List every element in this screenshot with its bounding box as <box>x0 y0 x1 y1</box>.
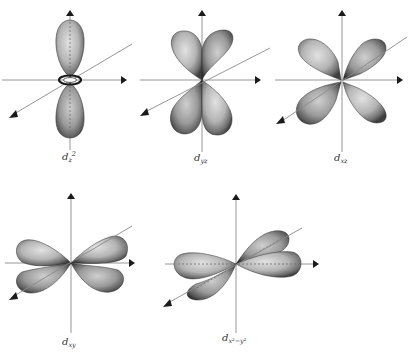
x-axis-arrow-icon <box>397 76 403 84</box>
lobe-lower-right <box>343 82 386 123</box>
y-axis-arrow-icon <box>163 299 172 307</box>
lobe-upper-right <box>202 30 233 80</box>
z-axis-arrow-icon <box>338 10 346 16</box>
d-orbitals-diagram <box>0 0 414 355</box>
label-dx2y2: dx²−y² <box>222 332 246 345</box>
lobe-lower-left <box>296 82 341 124</box>
label-dyz: dyz <box>194 152 208 165</box>
label-subscript: x²−y² <box>228 337 246 345</box>
z-axis-arrow-icon <box>198 10 206 16</box>
z-axis-arrow-icon <box>232 194 240 200</box>
orbital-dxz <box>275 10 407 152</box>
x-axis-arrow-icon <box>313 260 319 268</box>
lobe-lower-right <box>202 80 232 135</box>
z-axis-arrow-icon <box>66 10 74 16</box>
lobe-front-right <box>71 263 124 292</box>
lobe-lower-left <box>170 80 202 134</box>
label-subscript: yz <box>200 157 207 165</box>
label-dxz: dxz <box>334 152 348 165</box>
lobe-back-right <box>71 236 128 263</box>
y-axis-arrow-icon <box>9 110 18 118</box>
orbital-dyz <box>140 10 270 152</box>
label-dz2: dz2 <box>62 150 76 164</box>
z-axis-arrow-icon <box>67 193 75 199</box>
lobe-upper <box>56 20 84 77</box>
x-axis-arrow-icon <box>121 76 127 84</box>
label-subscript: xz <box>340 157 347 165</box>
orbital-dx2y2 <box>163 194 319 333</box>
lobe-upper-right <box>343 39 386 80</box>
x-axis-arrow-icon <box>129 259 135 267</box>
label-superscript: 2 <box>72 150 76 158</box>
x-axis-arrow-icon <box>255 76 261 84</box>
orbital-dxy <box>5 193 135 333</box>
lobe-upper-left <box>171 31 202 80</box>
y-axis-arrow-icon <box>140 108 149 116</box>
lobe-upper-left <box>298 39 341 80</box>
y-axis-arrow-icon <box>276 116 285 124</box>
label-subscript: xy <box>68 341 75 349</box>
label-dxy: dxy <box>62 336 76 349</box>
orbital-dz2 <box>2 10 132 150</box>
lobe-back-left <box>16 240 71 266</box>
y-axis-arrow-icon <box>9 292 18 300</box>
